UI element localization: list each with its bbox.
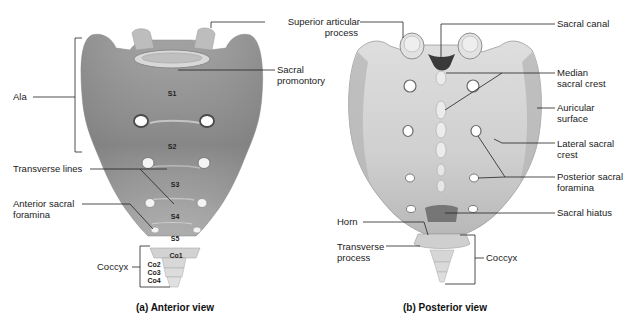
segment-s1: S1: [164, 90, 180, 98]
label-transverse-process-line1: Transverse: [337, 241, 384, 252]
label-ala: Ala: [13, 91, 27, 102]
label-coccyx-anterior: Coccyx: [97, 261, 128, 272]
label-sacral-promontory-line1: Sacral: [277, 64, 325, 75]
label-median-sacral-crest-line2: sacral crest: [557, 78, 606, 89]
label-auricular-surface-line1: Auricular: [557, 102, 595, 113]
label-anterior-sacral-foramina-line1: Anterior sacral: [13, 198, 74, 209]
label-superior-articular-process: Superior articular process: [268, 16, 360, 38]
segment-s3: S3: [167, 181, 183, 189]
label-lateral-sacral-crest-line1: Lateral sacral: [557, 138, 614, 149]
segment-co4: Co4: [145, 277, 163, 285]
caption-posterior-view: (b) Posterior view: [403, 302, 487, 313]
label-sacral-canal: Sacral canal: [557, 18, 609, 29]
segment-co1: Co1: [166, 252, 186, 260]
segment-s4: S4: [167, 213, 183, 221]
label-sacral-promontory-line2: promontory: [277, 75, 325, 86]
segment-s2: S2: [164, 143, 180, 151]
label-horn: Horn: [337, 216, 358, 227]
label-sacral-promontory: Sacral promontory: [277, 64, 325, 86]
label-transverse-process-line2: process: [337, 252, 384, 263]
label-posterior-sacral-foramina: Posterior sacral foramina: [557, 171, 623, 193]
segment-co2: Co2: [145, 261, 163, 269]
label-anterior-sacral-foramina: Anterior sacral foramina: [13, 198, 74, 220]
label-anterior-sacral-foramina-line2: foramina: [13, 209, 74, 220]
sacrum-coccyx-illustration: [0, 0, 637, 322]
label-auricular-surface-line2: surface: [557, 113, 595, 124]
label-posterior-sacral-foramina-line2: foramina: [557, 182, 623, 193]
label-lateral-sacral-crest: Lateral sacral crest: [557, 138, 614, 160]
label-superior-articular-process-line1: Superior articular: [268, 16, 360, 27]
label-transverse-lines: Transverse lines: [13, 163, 82, 174]
label-sacral-hiatus: Sacral hiatus: [557, 207, 612, 218]
label-coccyx-posterior: Coccyx: [486, 252, 517, 263]
caption-anterior-view: (a) Anterior view: [136, 302, 214, 313]
label-lateral-sacral-crest-line2: crest: [557, 149, 614, 160]
segment-co3: Co3: [145, 269, 163, 277]
label-transverse-process: Transverse process: [337, 241, 384, 263]
label-median-sacral-crest: Median sacral crest: [557, 67, 606, 89]
posterior-coccyx: [414, 234, 470, 282]
label-superior-articular-process-line2: process: [268, 27, 360, 38]
segment-s5: S5: [167, 235, 183, 243]
label-median-sacral-crest-line1: Median: [557, 67, 606, 78]
label-auricular-surface: Auricular surface: [557, 102, 595, 124]
label-posterior-sacral-foramina-line1: Posterior sacral: [557, 171, 623, 182]
anterior-sacrum: [81, 28, 263, 287]
